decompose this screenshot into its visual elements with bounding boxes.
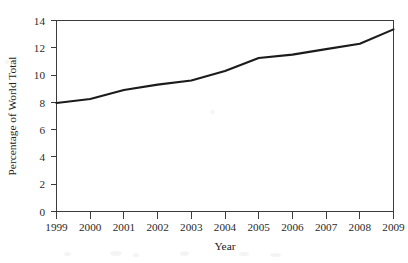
y-tick-label: 6 (39, 124, 45, 136)
x-tick-label: 2003 (180, 221, 203, 233)
x-axis-ticks (57, 212, 394, 219)
x-tick-label: 2008 (349, 221, 372, 233)
x-axis-tick-labels: 1999 2000 2001 2002 2003 2004 2005 2006 … (45, 221, 405, 233)
y-tick-label: 2 (39, 178, 45, 190)
x-tick-label: 2002 (146, 221, 168, 233)
x-tick-label: 2009 (382, 221, 405, 233)
x-axis-title: Year (215, 240, 236, 252)
x-tick-label: 2001 (113, 221, 135, 233)
y-axis-title: Percentage of World Total (6, 56, 18, 175)
y-tick-label: 14 (34, 15, 46, 27)
figure-container: 14 12 10 8 6 4 2 0 1999 2000 2001 2 (0, 0, 408, 263)
x-tick-label: 2007 (315, 221, 338, 233)
y-axis-ticks (51, 21, 57, 212)
y-axis-tick-labels: 14 12 10 8 6 4 2 0 (34, 15, 46, 218)
y-tick-label: 4 (39, 151, 45, 163)
y-tick-label: 12 (34, 42, 45, 54)
data-line-percentage-of-world-total (57, 29, 394, 103)
y-tick-label: 0 (39, 206, 45, 218)
plot-frame (57, 21, 394, 212)
data-series-group (57, 29, 394, 103)
x-tick-label: 2005 (248, 221, 271, 233)
x-tick-label: 2000 (79, 221, 102, 233)
y-tick-label: 10 (34, 69, 46, 81)
x-tick-label: 1999 (45, 221, 68, 233)
x-tick-label: 2004 (214, 221, 237, 233)
line-chart: 14 12 10 8 6 4 2 0 1999 2000 2001 2 (0, 0, 408, 263)
plot-border (57, 21, 394, 212)
x-tick-label: 2006 (281, 221, 304, 233)
y-tick-label: 8 (39, 97, 45, 109)
